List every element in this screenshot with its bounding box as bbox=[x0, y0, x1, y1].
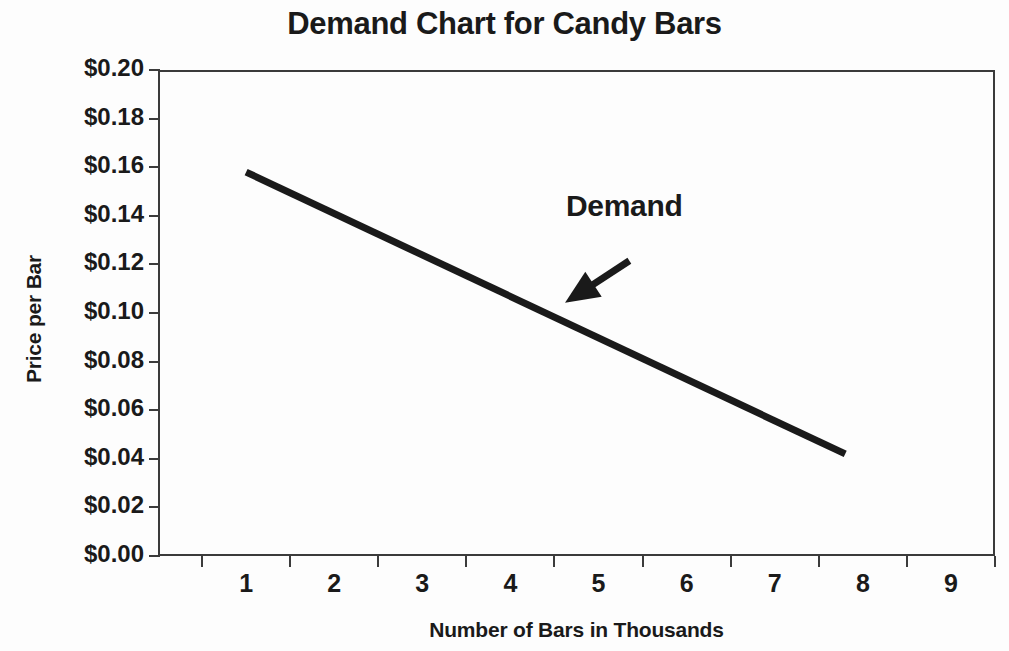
x-tick-label: 5 bbox=[569, 569, 629, 598]
x-tick-label: 7 bbox=[745, 569, 805, 598]
demand-annotation-label: Demand bbox=[566, 189, 683, 223]
x-tick-label: 2 bbox=[304, 569, 364, 598]
y-tick-label: $0.08 bbox=[24, 346, 144, 374]
y-tick-mark bbox=[149, 506, 160, 508]
y-tick-mark bbox=[149, 69, 160, 71]
x-tick-mark bbox=[994, 556, 996, 567]
y-tick-label: $0.18 bbox=[24, 103, 144, 131]
x-tick-mark bbox=[465, 556, 467, 567]
x-tick-label: 9 bbox=[921, 569, 981, 598]
y-tick-label: $0.06 bbox=[24, 394, 144, 422]
y-tick-mark bbox=[149, 166, 160, 168]
x-tick-mark bbox=[201, 556, 203, 567]
y-tick-label: $0.02 bbox=[24, 491, 144, 519]
y-tick-label: $0.16 bbox=[24, 151, 144, 179]
y-tick-label: $0.14 bbox=[24, 200, 144, 228]
x-tick-mark bbox=[906, 556, 908, 567]
x-tick-mark bbox=[730, 556, 732, 567]
y-tick-mark bbox=[149, 409, 160, 411]
x-tick-label: 1 bbox=[216, 569, 276, 598]
y-tick-label: $0.04 bbox=[24, 443, 144, 471]
y-tick-mark bbox=[149, 263, 160, 265]
chart-title: Demand Chart for Candy Bars bbox=[0, 6, 1009, 42]
x-tick-label: 8 bbox=[833, 569, 893, 598]
x-tick-mark bbox=[642, 556, 644, 567]
y-tick-mark bbox=[149, 458, 160, 460]
x-tick-mark bbox=[553, 556, 555, 567]
y-tick-mark bbox=[149, 215, 160, 217]
y-tick-mark bbox=[149, 361, 160, 363]
demand-chart-figure: Demand Chart for Candy Bars Price per Ba… bbox=[0, 0, 1009, 651]
x-tick-label: 6 bbox=[657, 569, 717, 598]
x-tick-mark bbox=[289, 556, 291, 567]
x-tick-mark bbox=[818, 556, 820, 567]
plot-area bbox=[158, 70, 995, 556]
y-tick-label: $0.00 bbox=[24, 540, 144, 568]
y-tick-mark bbox=[149, 312, 160, 314]
x-tick-mark bbox=[377, 556, 379, 567]
x-tick-label: 3 bbox=[392, 569, 452, 598]
x-axis-title: Number of Bars in Thousands bbox=[158, 618, 995, 642]
y-tick-label: $0.10 bbox=[24, 297, 144, 325]
y-tick-label: $0.20 bbox=[24, 54, 144, 82]
y-tick-mark bbox=[149, 555, 160, 557]
x-tick-label: 4 bbox=[480, 569, 540, 598]
y-tick-mark bbox=[149, 118, 160, 120]
y-tick-label: $0.12 bbox=[24, 248, 144, 276]
